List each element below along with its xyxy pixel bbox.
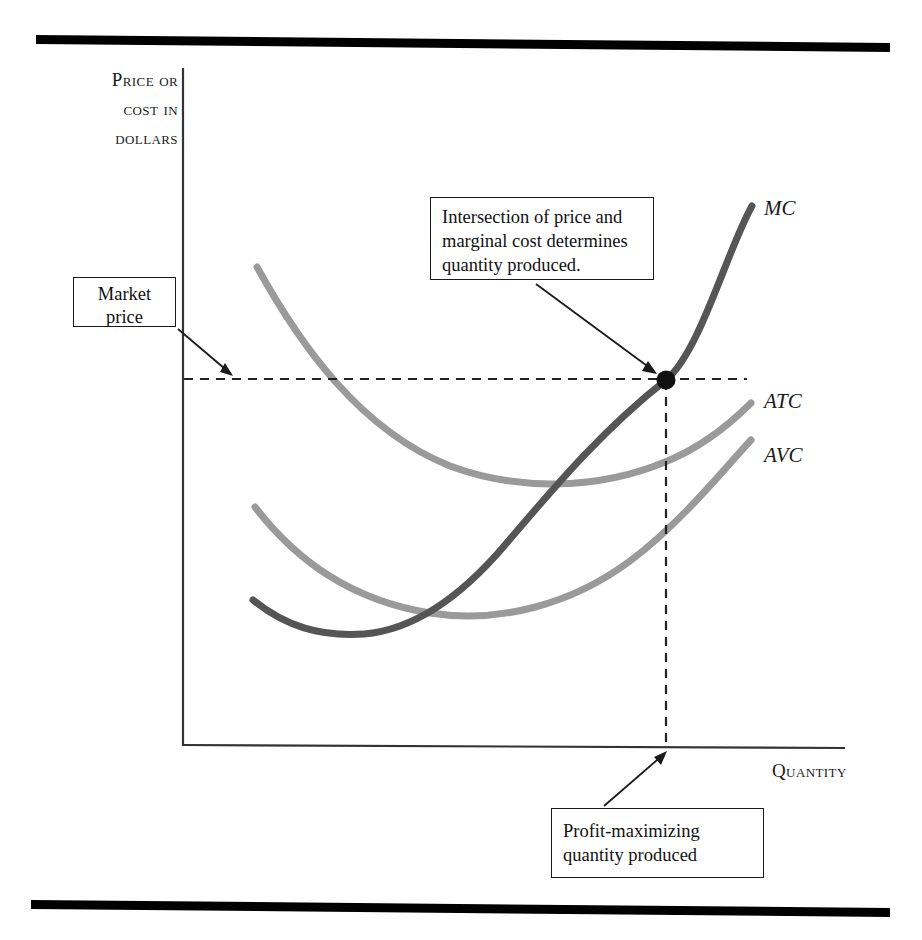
atc-curve (257, 267, 751, 484)
x-axis-label: Quantity (772, 760, 847, 782)
atc-curve-label: ATC (764, 389, 802, 414)
market-price-leader (178, 329, 233, 376)
market-price-callout: Market price (73, 277, 176, 327)
intersection-callout: Intersection of price and marginal cost … (430, 197, 654, 280)
profit-max-quantity-callout: Profit-maximizing quantity produced (551, 808, 764, 878)
bottom-rule (31, 900, 890, 917)
profit-max-leader (604, 751, 667, 806)
top-rule (36, 35, 890, 52)
figure-container: Price or cost in dollars Quantity MC ATC… (0, 0, 922, 940)
intersection-leader (536, 284, 657, 374)
y-axis-label: Price or cost in dollars (92, 66, 178, 153)
x-axis-line (182, 745, 845, 748)
equilibrium-point-dot (657, 371, 676, 390)
mc-curve-label: MC (764, 196, 796, 221)
avc-curve (255, 440, 751, 616)
avc-curve-label: AVC (764, 443, 803, 468)
